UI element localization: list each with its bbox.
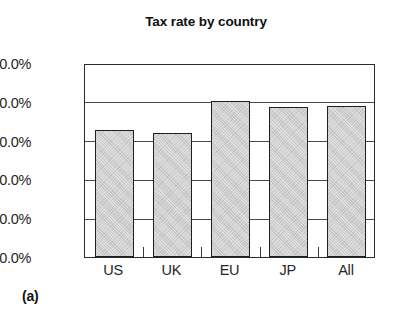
x-axis-label-us: US <box>103 262 123 278</box>
x-axis-label-eu: EU <box>220 262 240 278</box>
x-axis-label-all: All <box>338 262 354 278</box>
figure-panel: Tax rate by country 50.0%40.0%30.0%20.0%… <box>0 0 412 317</box>
y-axis-tick-label: 10.0% <box>0 211 31 227</box>
panel-caption: (a) <box>22 288 39 304</box>
bar-uk <box>153 133 192 257</box>
y-axis-tick-label: 20.0% <box>0 172 31 188</box>
x-axis-tick <box>318 247 319 257</box>
y-axis-tick-label: 50.0% <box>0 56 31 72</box>
y-axis-tick-label: 40.0% <box>0 95 31 111</box>
x-axis-label-uk: UK <box>161 262 181 278</box>
x-axis-tick <box>260 247 261 257</box>
x-axis-label-jp: JP <box>279 262 296 278</box>
bar-us <box>95 130 134 257</box>
bar-eu <box>211 101 250 257</box>
x-axis-tick <box>201 247 202 257</box>
plot-area <box>84 64 375 258</box>
bar-jp <box>269 107 308 257</box>
chart-title: Tax rate by country <box>0 14 412 29</box>
y-axis-tick-label: 0.0% <box>0 250 31 266</box>
y-axis-tick-label: 30.0% <box>0 134 31 150</box>
bar-all <box>327 106 366 257</box>
x-axis-tick <box>143 247 144 257</box>
